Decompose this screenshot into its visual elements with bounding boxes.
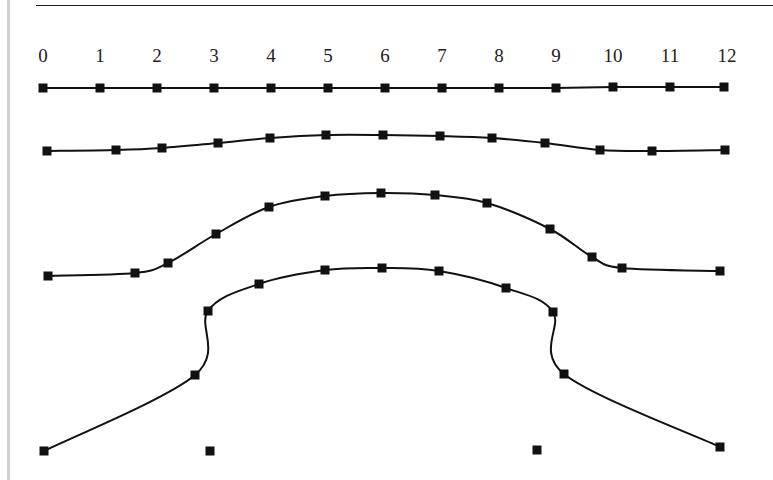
control-point-marker bbox=[214, 139, 223, 148]
control-point-marker bbox=[648, 147, 657, 156]
isolated-points bbox=[206, 446, 542, 456]
control-point-marker bbox=[721, 146, 730, 155]
control-point-marker bbox=[322, 131, 331, 140]
control-point-marker bbox=[164, 259, 173, 268]
control-point-marker bbox=[549, 308, 558, 317]
axis-label: 3 bbox=[209, 45, 219, 66]
axis-label: 6 bbox=[380, 45, 390, 66]
curve-diagram: 0123456789101112 bbox=[0, 0, 773, 480]
control-point-marker bbox=[324, 84, 333, 93]
control-point-marker bbox=[546, 225, 555, 234]
control-point-marker bbox=[716, 443, 725, 452]
control-point-marker bbox=[435, 267, 444, 276]
control-point-marker bbox=[588, 253, 597, 262]
control-point-marker bbox=[204, 307, 213, 316]
control-point-marker bbox=[131, 269, 140, 278]
control-point-marker bbox=[191, 371, 200, 380]
axis-label: 4 bbox=[266, 45, 276, 66]
control-point-marker bbox=[495, 84, 504, 93]
control-point-marker bbox=[618, 264, 627, 273]
control-point-marker bbox=[40, 447, 49, 456]
control-point-marker bbox=[39, 84, 48, 93]
control-point-marker bbox=[436, 132, 445, 141]
axis-label: 11 bbox=[661, 45, 679, 66]
curve-line bbox=[44, 268, 720, 451]
control-point-marker bbox=[488, 134, 497, 143]
control-point-marker bbox=[321, 192, 330, 201]
control-point-marker bbox=[44, 272, 53, 281]
axis-label: 7 bbox=[437, 45, 447, 66]
control-point-marker bbox=[43, 147, 52, 156]
axis-label: 10 bbox=[604, 45, 623, 66]
control-point-marker bbox=[431, 191, 440, 200]
isolated-point-marker bbox=[206, 447, 215, 456]
curve-4-steep-bump bbox=[40, 264, 725, 456]
axis-labels: 0123456789101112 bbox=[38, 45, 736, 66]
control-point-marker bbox=[265, 203, 274, 212]
control-point-marker bbox=[378, 264, 387, 273]
control-point-marker bbox=[483, 199, 492, 208]
control-point-marker bbox=[255, 280, 264, 289]
axis-label: 12 bbox=[718, 45, 737, 66]
axis-label: 8 bbox=[494, 45, 504, 66]
axis-label: 2 bbox=[152, 45, 162, 66]
control-point-marker bbox=[158, 144, 167, 153]
curves bbox=[39, 83, 730, 456]
control-point-marker bbox=[560, 370, 569, 379]
control-point-marker bbox=[210, 84, 219, 93]
control-point-marker bbox=[438, 84, 447, 93]
control-point-marker bbox=[212, 230, 221, 239]
control-point-marker bbox=[716, 267, 725, 276]
control-point-marker bbox=[96, 84, 105, 93]
control-point-marker bbox=[596, 146, 605, 155]
control-point-marker bbox=[321, 266, 330, 275]
control-point-marker bbox=[502, 284, 511, 293]
control-point-marker bbox=[541, 139, 550, 148]
axis-label: 9 bbox=[551, 45, 561, 66]
control-point-marker bbox=[266, 134, 275, 143]
curve-1-flat bbox=[39, 83, 729, 93]
control-point-marker bbox=[379, 131, 388, 140]
curve-2-slight-bump bbox=[43, 131, 730, 156]
isolated-point-marker bbox=[533, 446, 542, 455]
control-point-marker bbox=[267, 84, 276, 93]
control-point-marker bbox=[666, 83, 675, 92]
control-point-marker bbox=[153, 84, 162, 93]
control-point-marker bbox=[720, 83, 729, 92]
axis-label: 1 bbox=[95, 45, 105, 66]
control-point-marker bbox=[381, 84, 390, 93]
axis-label: 0 bbox=[38, 45, 48, 66]
control-point-marker bbox=[377, 189, 386, 198]
control-point-marker bbox=[609, 83, 618, 92]
axis-label: 5 bbox=[323, 45, 333, 66]
control-point-marker bbox=[552, 84, 561, 93]
control-point-marker bbox=[112, 146, 121, 155]
